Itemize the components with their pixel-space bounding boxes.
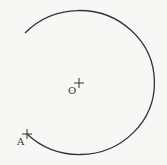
center-label: O (68, 85, 76, 96)
geometry-diagram: O A (0, 0, 167, 165)
arc (25, 11, 154, 155)
point-a-label: A (16, 136, 25, 147)
